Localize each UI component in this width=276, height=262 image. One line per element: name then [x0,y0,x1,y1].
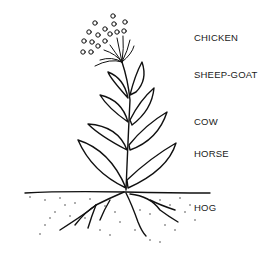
label-cow: COW [194,116,218,127]
label-sheep-goat: SHEEP-GOAT [194,69,258,80]
plant-diagram: CHICKEN SHEEP-GOAT COW HORSE HOG [0,0,276,262]
soil-dots [29,196,195,242]
label-chicken: CHICKEN [194,32,238,43]
flower-seeds [81,14,127,54]
label-horse: HORSE [194,148,229,159]
label-hog: HOG [194,202,216,213]
